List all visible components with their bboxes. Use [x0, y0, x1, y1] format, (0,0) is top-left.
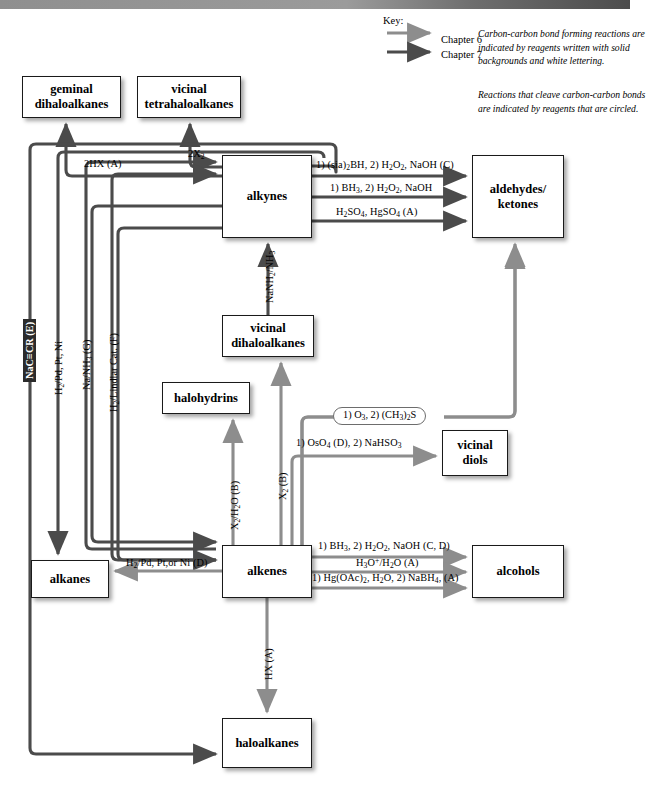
reagent-alkyne-acid-hydration: H2SO4, HgSO4 (A) [336, 206, 417, 219]
node-alkenes[interactable]: alkenes [222, 545, 312, 598]
node-aldehydes-ketones[interactable]: aldehydes/ ketones [472, 155, 564, 238]
node-haloalkanes[interactable]: haloalkanes [222, 718, 312, 768]
node-label: vicinal dihaloalkanes [231, 321, 305, 351]
reagent-alkyne-to-vicinal-tetra: 2X2 [188, 148, 205, 161]
reagent-alkene-ozonolysis: 1) O3, 2) (CH3)2S [333, 407, 426, 425]
reagent-alkene-to-vicinaldihalo: X2 (B) [277, 472, 290, 500]
node-label: alkynes [247, 189, 287, 204]
reagent-alkyne-hydroboration-bh3: 1) BH3, 2) H2O2, NaOH [330, 182, 432, 195]
node-label: aldehydes/ ketones [490, 182, 546, 212]
key-title: Key: [383, 15, 482, 26]
reagent-alkyne-lindlar: H2/Lindlar Cat. (F) [108, 333, 121, 412]
reagent-vicinaldihalo-to-alkyne: NaNH2/NH3 [264, 251, 277, 303]
reagent-alkene-to-haloalkane: HX (A) [263, 648, 274, 680]
node-label: alkanes [50, 572, 90, 587]
reagent-alkene-hydroboration: 1) BH3, 2) H2O2, NaOH (C, D) [318, 540, 450, 553]
node-alkynes[interactable]: alkynes [222, 155, 312, 238]
reagent-alkene-dihydroxylation: 1) OsO4 (D), 2) NaHSO3 [296, 437, 402, 450]
node-geminal-dihaloalkanes[interactable]: geminal dihaloalkanes [22, 76, 121, 118]
key-label: Chapter 7 [441, 49, 482, 60]
node-vicinal-tetrahaloalkanes[interactable]: vicinal tetrahaloalkanes [137, 76, 241, 118]
key-entry-chapter6: Chapter 6 [383, 32, 482, 47]
node-label: haloalkanes [235, 736, 298, 751]
legend-note-cleaving: Reactions that cleave carbon-carbon bond… [478, 88, 648, 115]
key-label: Chapter 6 [441, 34, 482, 45]
node-label: alcohols [496, 564, 539, 579]
reagent-alkyne-to-geminal: 2HX (A) [84, 158, 122, 169]
node-vicinal-diols[interactable]: vicinal diols [442, 430, 508, 476]
node-label: halohydrins [174, 391, 238, 406]
legend-note-forming: Carbon-carbon bond forming reactions are… [478, 27, 648, 68]
reagent-alkyne-na-nh3: Na/NH3 (G) [81, 340, 94, 390]
reagent-alkyne-hydrogenation: H2/Pd, Pt, Ni [53, 341, 66, 395]
reagent-alkene-to-alkane: H2/Pd, Pt,or Ni (D) [126, 557, 208, 570]
reagent-alkyne-hydroboration-sia: 1) (sia)2BH, 2) H2O2, NaOH (C) [316, 159, 454, 172]
node-label: geminal dihaloalkanes [35, 82, 109, 112]
reagent-alkene-oxymercuration: 1) Hg(OAc)2, H2O, 2) NaBH4, (A) [312, 572, 459, 585]
reagent-acetylide-alkylation: NaC≡CR (E) [24, 319, 35, 382]
reagent-alkene-to-halohydrin: X2/H2O (B) [229, 481, 242, 530]
node-alkanes[interactable]: alkanes [31, 560, 109, 598]
node-halohydrins[interactable]: halohydrins [162, 382, 250, 414]
node-alcohols[interactable]: alcohols [472, 545, 564, 598]
node-label: vicinal tetrahaloalkanes [145, 82, 234, 112]
key-entry-chapter7: Chapter 7 [383, 47, 482, 62]
node-vicinal-dihaloalkanes[interactable]: vicinal dihaloalkanes [222, 315, 314, 357]
node-label: alkenes [247, 564, 287, 579]
key-legend: Key: Chapter 6 Chapter 7 [383, 15, 482, 62]
node-label: vicinal diols [457, 438, 492, 468]
reagent-alkene-acid-hydration: H3O+/H2O (A) [356, 556, 419, 570]
